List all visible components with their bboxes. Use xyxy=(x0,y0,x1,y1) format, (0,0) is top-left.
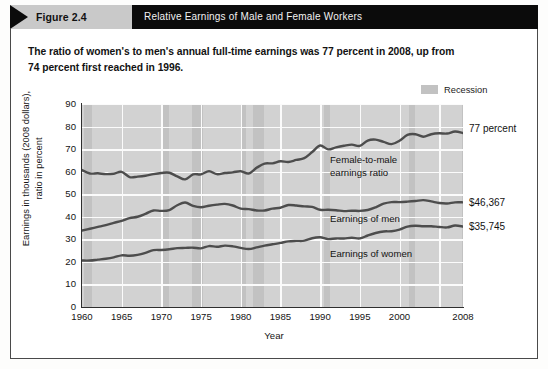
annotation-men: Earnings of men xyxy=(330,213,400,226)
annotation-ratio: Female-to-male earnings ratio xyxy=(330,154,397,179)
x-tick-label: 1965 xyxy=(105,311,139,322)
x-tick-label: 1995 xyxy=(343,311,377,322)
y-tick-label: 40 xyxy=(52,211,76,222)
annotation-women: Earnings of women xyxy=(330,248,412,261)
recession-swatch-icon xyxy=(421,85,438,94)
y-axis-label-line: Earnings in thousands (2008 dollars), xyxy=(20,74,33,264)
y-tick-label: 90 xyxy=(52,98,76,109)
recession-legend-label: Recession xyxy=(444,85,487,95)
y-tick-label: 50 xyxy=(52,188,76,199)
x-tick-label: 1970 xyxy=(144,311,178,322)
y-tick-label: 80 xyxy=(52,121,76,132)
edge-label-men: $46,367 xyxy=(469,197,505,208)
edge-label-women: $35,745 xyxy=(469,221,505,232)
y-tick-label: 70 xyxy=(52,143,76,154)
figure-title: Relative Earnings of Male and Female Wor… xyxy=(144,5,362,29)
y-tick-label: 20 xyxy=(52,256,76,267)
x-tick-label: 1975 xyxy=(184,311,218,322)
x-tick-label: 1985 xyxy=(263,311,297,322)
x-tick-label: 1960 xyxy=(65,311,99,322)
y-tick-label: 30 xyxy=(52,233,76,244)
x-axis-line xyxy=(81,307,464,308)
series-line-1 xyxy=(82,132,463,180)
x-tick-label: 1980 xyxy=(224,311,258,322)
recession-legend: Recession xyxy=(421,83,487,96)
figure-subtitle: The ratio of women's to men's annual ful… xyxy=(28,44,458,76)
y-axis-label-line: ratio in percent xyxy=(32,74,45,264)
figure-container: Relative Earnings of Male and Female Wor… xyxy=(0,0,548,369)
series-lines xyxy=(82,104,463,307)
y-tick-label: 60 xyxy=(52,166,76,177)
x-tick-label: 1990 xyxy=(303,311,337,322)
x-tick-label: 2008 xyxy=(446,311,480,322)
x-tick-label: 2000 xyxy=(383,311,417,322)
y-axis-label: Earnings in thousands (2008 dollars),rat… xyxy=(20,74,45,264)
y-tick-label: 10 xyxy=(52,278,76,289)
edge-label-ratio: 77 percent xyxy=(469,123,516,134)
x-axis-label: Year xyxy=(0,330,548,341)
plot-area xyxy=(82,104,463,307)
